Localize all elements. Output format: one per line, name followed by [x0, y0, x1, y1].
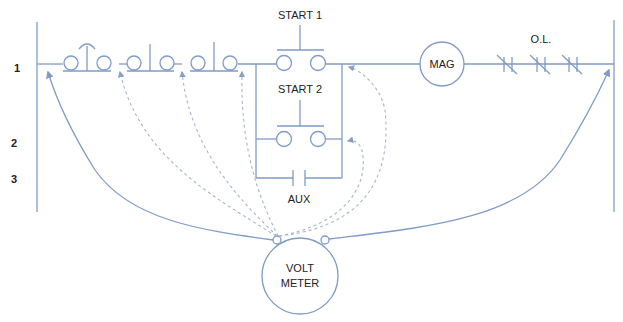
voltmeter-terminal-right [321, 236, 329, 244]
overload-label: O.L. [531, 33, 552, 45]
ladder-diagram: START 1 START 2 AUX MAG O.L. 1 2 3 VOLT … [0, 0, 623, 322]
start-branch-frame [256, 64, 342, 178]
voltmeter-label-line2: METER [281, 277, 320, 289]
rung-number-1: 1 [14, 62, 20, 74]
voltmeter-lead-left-rail [48, 72, 273, 240]
start-2-label: START 2 [278, 83, 322, 95]
mag-label: MAG [429, 58, 454, 70]
stop-switch-2 [127, 44, 174, 71]
rung-number-2: 2 [11, 137, 17, 149]
voltmeter-lead-right-rail [329, 70, 609, 239]
start-1-pushbutton [277, 25, 326, 71]
rung-number-3: 3 [11, 173, 17, 185]
aux-label: AUX [288, 193, 311, 205]
voltmeter [262, 238, 338, 314]
voltmeter-label-line1: VOLT [286, 262, 314, 274]
probe-paths [120, 67, 386, 236]
start-2-pushbutton [256, 100, 342, 147]
start-1-label: START 1 [278, 9, 322, 21]
stop-switch-1 [63, 44, 111, 71]
stop-switch-3 [190, 42, 238, 71]
aux-contact [256, 170, 342, 186]
voltmeter-terminal-left [273, 236, 281, 244]
